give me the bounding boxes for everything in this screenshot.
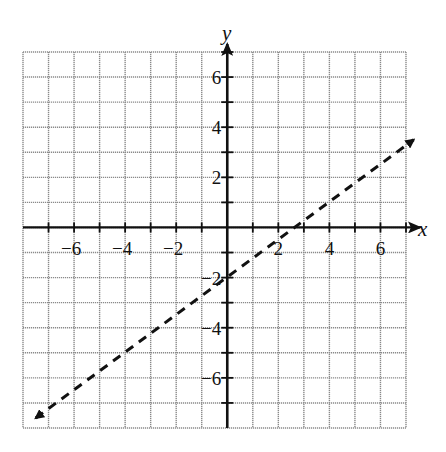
dashed-line-series (36, 140, 414, 418)
x-tick-label: 4 (325, 238, 335, 259)
x-tick-label: −6 (61, 238, 81, 259)
x-tick-label: −4 (112, 238, 133, 259)
y-tick-label: 6 (212, 67, 222, 88)
y-axis-label: y (220, 21, 232, 45)
y-tick-label: −6 (201, 368, 221, 389)
x-axis-label: x (417, 217, 428, 241)
y-tick-label: 2 (212, 167, 222, 188)
coordinate-plane: −6−4−2246642−2−4−6 x y (0, 0, 446, 452)
x-tick-label: −2 (163, 238, 183, 259)
y-tick-label: −4 (201, 318, 222, 339)
x-tick-label: 2 (274, 238, 284, 259)
x-tick-label: 6 (376, 238, 386, 259)
y-tick-label: 4 (212, 117, 222, 138)
dashed-line (36, 140, 414, 418)
